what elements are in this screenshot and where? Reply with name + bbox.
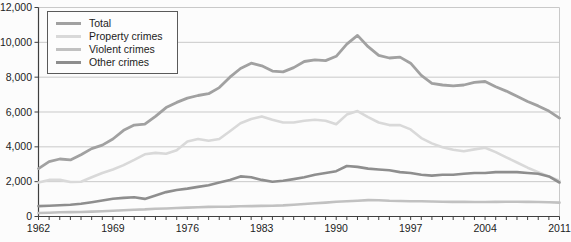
legend-label-violent-crimes: Violent crimes [89,43,155,56]
y-tick-label-2000: 2,000 [6,175,32,187]
legend-swatch-property-crimes [56,35,81,38]
legend-item-property-crimes: Property crimes [56,30,169,43]
series-line-violent-crimes [39,200,560,213]
x-tick-label-1997: 1997 [399,222,423,234]
legend-swatch-other-crimes [56,61,81,64]
x-tick-label-1976: 1976 [176,222,200,234]
legend-swatch-total [56,22,81,25]
legend-swatch-violent-crimes [56,48,81,51]
legend-item-other-crimes: Other crimes [56,56,169,69]
legend-label-other-crimes: Other crimes [89,56,149,69]
x-tick-label-2011: 2011 [548,222,571,234]
legend-label-property-crimes: Property crimes [89,30,163,43]
x-tick-label-2004: 2004 [473,222,497,234]
y-tick-label-4000: 4,000 [6,140,32,152]
y-tick-label-0: 0 [26,210,32,222]
y-tick-label-6000: 6,000 [6,106,32,118]
legend-item-total: Total [56,17,169,30]
x-tick-label-1962: 1962 [27,222,51,234]
y-tick-label-10000: 10,000 [0,36,32,48]
y-tick-label-12000: 12,000 [0,1,32,13]
crime-trends-line-chart: 02,0004,0006,0008,00010,00012,0001962196… [0,0,571,242]
x-tick-label-1969: 1969 [101,222,125,234]
x-tick-label-1983: 1983 [250,222,274,234]
x-tick-label-1990: 1990 [325,222,349,234]
legend-item-violent-crimes: Violent crimes [56,43,169,56]
chart-legend: Total Property crimes Violent crimes Oth… [47,11,178,74]
y-tick-label-8000: 8,000 [6,71,32,83]
legend-label-total: Total [89,17,111,30]
series-line-other-crimes [39,166,560,206]
